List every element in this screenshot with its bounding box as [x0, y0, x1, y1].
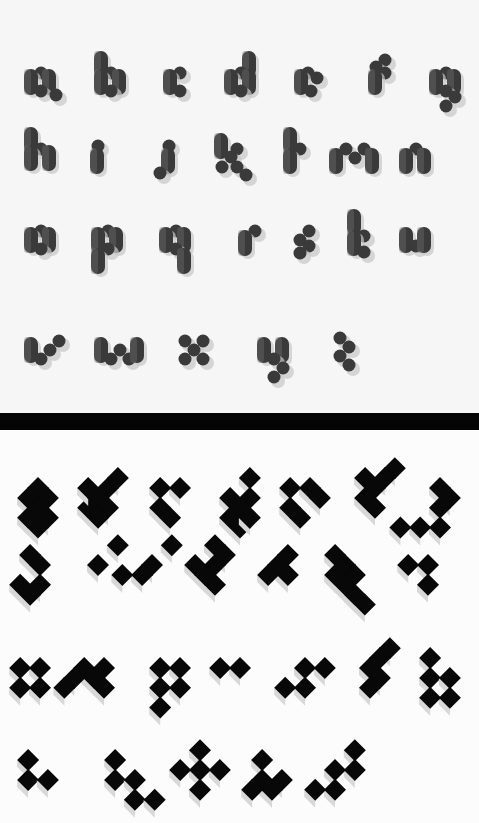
- block-glyph-h: [9, 544, 51, 613]
- block-glyph-u: [419, 647, 461, 716]
- block-glyph-g: [389, 477, 461, 546]
- dot-glyph-n: [399, 143, 434, 178]
- dot-glyph-s: [294, 225, 321, 265]
- dot-glyph-e: [294, 67, 328, 103]
- dot-glyph-o: [24, 225, 59, 261]
- dot-glyph-z: [334, 332, 361, 377]
- dot-glyph-a: [24, 67, 67, 107]
- dot-glyph-y: [257, 337, 294, 388]
- dot-glyph-g: [429, 67, 466, 118]
- dot-glyph-l: [283, 127, 311, 177]
- block-glyph-l: [257, 544, 299, 593]
- dot-glyph-f: [368, 54, 396, 99]
- dot-glyph-p: [91, 225, 126, 278]
- dot-glyph-u: [399, 227, 434, 257]
- dot-glyph-b: [94, 51, 129, 102]
- block-glyph-r: [209, 657, 251, 686]
- block-glyph-q: [149, 657, 191, 726]
- block-glyph-f: [354, 457, 406, 526]
- block-glyph-o: [9, 657, 51, 706]
- block-glyph-n: [397, 554, 439, 603]
- block-glyph-x: [169, 739, 231, 808]
- dot-glyph-m: [329, 143, 382, 178]
- block-glyph-p: [53, 657, 115, 706]
- dot-glyph-v: [24, 335, 70, 371]
- dot-glyph-k: [214, 133, 257, 186]
- dot-glyph-j: [154, 140, 181, 185]
- block-glyph-m: [324, 544, 376, 623]
- block-glyph-k: [184, 534, 236, 603]
- dot-glyph-x: [179, 335, 215, 371]
- block-glyph-s: [274, 657, 336, 706]
- dot-glyph-w: [94, 337, 147, 370]
- dot-glyph-i: [90, 140, 109, 178]
- specimen-artwork: [0, 0, 479, 823]
- block-glyph-w: [104, 749, 166, 818]
- dot-glyph-d: [224, 51, 259, 102]
- block-glyph-a: [17, 477, 59, 546]
- block-glyph-d: [219, 467, 261, 545]
- dot-glyph-c: [163, 67, 191, 103]
- block-glyph-e: [279, 477, 331, 536]
- block-glyph-z: [304, 739, 366, 808]
- block-glyph-y: [241, 749, 293, 808]
- dot-glyph-r: [238, 225, 266, 260]
- block-glyph-c: [149, 477, 191, 536]
- block-glyph-t: [359, 637, 401, 706]
- block-glyph-v: [17, 749, 59, 798]
- dot-glyph-t: [347, 209, 375, 263]
- dot-glyph-h: [24, 127, 59, 174]
- dot-glyph-q: [159, 225, 194, 278]
- block-glyph-b: [77, 467, 129, 536]
